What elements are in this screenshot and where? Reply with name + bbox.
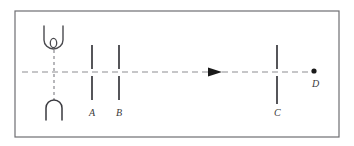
figure-background (0, 0, 354, 146)
slit-c-label: C (274, 107, 281, 118)
point-d-label: D (311, 78, 320, 89)
point-d-marker (311, 68, 316, 73)
slit-b-label: B (116, 107, 122, 118)
figure-canvas: A B C D (0, 0, 354, 146)
optics-figure: A B C D (0, 0, 354, 146)
slit-a-label: A (88, 107, 96, 118)
